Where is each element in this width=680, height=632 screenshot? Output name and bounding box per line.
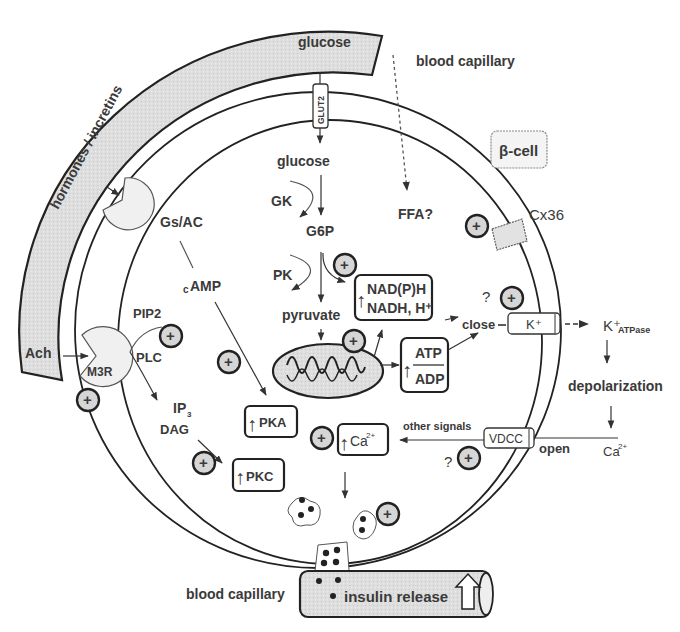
diagram-canvas: β-cell glucose blood capillary hormones …	[0, 0, 680, 632]
g6p-label: G6P	[306, 223, 334, 239]
plus-icon: +	[77, 389, 99, 411]
plus-icon: +	[311, 427, 333, 449]
plus-icon: +	[334, 254, 356, 276]
pyruvate-label: pyruvate	[282, 307, 341, 323]
up-arrow-icon: ↑	[402, 359, 412, 381]
pip2-label: PIP2	[133, 306, 161, 321]
adp-label: ADP	[415, 371, 445, 387]
ach-label: Ach	[25, 345, 51, 361]
blood-capillary-top-label: blood capillary	[416, 53, 515, 69]
plus-icon: +	[160, 325, 182, 347]
katp-channel: K⁺	[508, 313, 560, 334]
katp-channel-label: K⁺	[526, 317, 542, 332]
insulin-release-label: insulin release	[344, 588, 448, 605]
pk-label: PK	[273, 267, 292, 283]
pka-box: ↑ PKA	[245, 406, 297, 437]
pkc-label: PKC	[246, 469, 274, 484]
svg-text:+: +	[472, 217, 481, 234]
question-mark-katp: ?	[482, 288, 490, 305]
svg-text:+: +	[224, 353, 233, 370]
cx36-label: Cx36	[529, 206, 564, 223]
depolarization-label: depolarization	[568, 378, 663, 394]
up-arrow-icon: ↑	[247, 413, 257, 435]
close-label: close	[462, 317, 495, 332]
bottom-capillary: insulin release	[300, 571, 493, 617]
plus-icon: +	[193, 452, 215, 474]
svg-text:+: +	[340, 256, 349, 273]
svg-text:+: +	[507, 289, 516, 306]
pka-label: PKA	[259, 415, 287, 430]
beta-cell-label-box: β-cell	[491, 131, 547, 168]
beta-cell-label: β-cell	[499, 142, 538, 159]
plus-icon: +	[501, 287, 523, 309]
plus-icon: +	[377, 503, 399, 525]
up-arrow-icon: ↑	[356, 289, 366, 311]
plc-label: PLC	[136, 350, 163, 365]
plus-icon: +	[218, 351, 240, 373]
camp-prefix: c	[183, 284, 189, 295]
m3r-label: M3R	[87, 365, 113, 379]
plus-icon: +	[466, 215, 488, 237]
blood-capillary-bottom-label: blood capillary	[186, 586, 285, 602]
svg-text:+: +	[317, 429, 326, 446]
svg-text:+: +	[464, 449, 473, 466]
plus-icon: +	[458, 447, 480, 469]
up-arrow-icon: ↑	[235, 466, 245, 488]
ca-intracellular-sup: 2+	[366, 431, 375, 440]
nadh-label-text: NADH, H⁺	[367, 300, 432, 316]
gk-label: GK	[271, 193, 292, 209]
up-arrow-icon: ↑	[339, 432, 349, 454]
mitochondrion	[273, 344, 383, 398]
open-label: open	[539, 441, 570, 456]
nadph-label: NAD(P)H	[367, 281, 426, 297]
pkc-box: ↑ PKC	[233, 459, 284, 491]
svg-text:+: +	[199, 454, 208, 471]
svg-text:+: +	[383, 505, 392, 522]
plus-icon: +	[343, 330, 365, 352]
svg-text:+: +	[166, 327, 175, 344]
glut2-label: GLUT2	[316, 96, 326, 124]
other-signals-label: other signals	[403, 420, 471, 432]
question-mark-vdcc: ?	[444, 453, 452, 470]
ip3-subscript: 3	[187, 410, 192, 419]
ffa-label: FFA?	[398, 206, 433, 222]
camp-label: AMP	[190, 278, 221, 294]
vdcc-label: VDCC	[489, 432, 523, 446]
vdcc-channel: VDCC	[484, 428, 534, 448]
svg-text:+: +	[349, 332, 358, 349]
k-atpase-subscript: ATPase	[618, 325, 650, 335]
atp-adp-box: ↑ ATP ADP	[401, 338, 448, 392]
gs-ac-label: Gs/AC	[160, 214, 203, 230]
svg-text:+: +	[83, 391, 92, 408]
ip3-label: IP	[173, 400, 186, 416]
glucose-blood-label: glucose	[298, 34, 351, 50]
glucose-intracellular-label: glucose	[277, 153, 330, 169]
ca-extracellular-sup: 2+	[618, 442, 627, 451]
dag-label: DAG	[160, 422, 189, 437]
atp-label: ATP	[415, 345, 442, 361]
ca-intracellular-box: ↑ Ca 2+	[338, 424, 388, 455]
gs-ac-receptor	[103, 178, 154, 230]
